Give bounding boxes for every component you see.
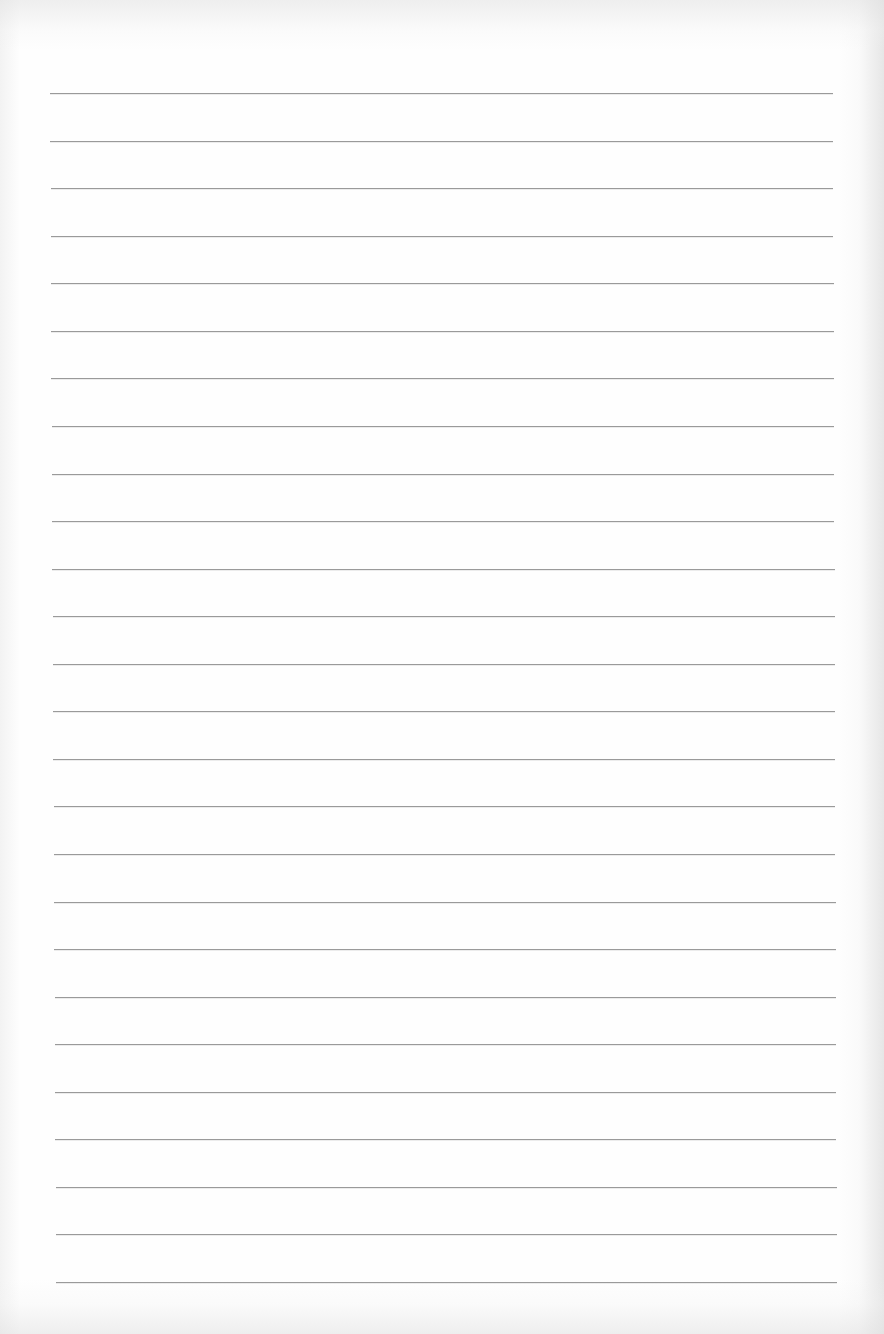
ruled-line [51, 331, 834, 332]
ruled-line [55, 1139, 836, 1140]
ruled-line [51, 283, 834, 284]
ruled-line [54, 854, 836, 855]
ruled-line [53, 616, 835, 617]
ruled-line [53, 664, 835, 665]
ruled-line [51, 378, 834, 379]
lined-paper-sheet [0, 0, 884, 1334]
ruled-line [55, 1044, 836, 1045]
ruled-line [52, 569, 834, 570]
ruled-line [55, 997, 837, 998]
ruled-line [52, 521, 834, 522]
ruled-line [56, 1187, 837, 1188]
ruled-line [53, 759, 835, 760]
ruled-line [56, 1234, 837, 1235]
ruled-line [50, 141, 833, 142]
ruled-line [52, 474, 834, 475]
ruled-line [52, 426, 834, 427]
ruled-line [54, 949, 836, 950]
ruled-line [51, 188, 834, 189]
ruled-line [54, 806, 836, 807]
ruled-line [50, 93, 833, 94]
ruled-line [51, 236, 834, 237]
ruled-line [55, 1092, 836, 1093]
ruled-line [54, 902, 836, 903]
ruled-line [53, 711, 835, 712]
ruled-line [56, 1282, 837, 1283]
